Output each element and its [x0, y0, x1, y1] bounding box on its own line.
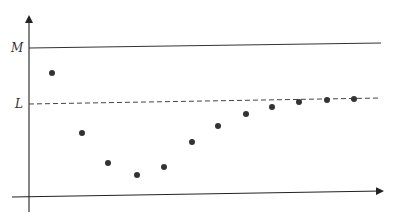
- data-points: [49, 70, 357, 178]
- data-point: [296, 99, 302, 105]
- data-point: [49, 70, 55, 76]
- data-point: [324, 97, 330, 103]
- data-point: [243, 111, 249, 117]
- data-point: [189, 139, 195, 145]
- data-point: [105, 160, 111, 166]
- data-point: [79, 130, 85, 136]
- x-axis: [12, 191, 382, 197]
- m-reference-line: [29, 43, 381, 48]
- m-label: M: [10, 41, 24, 55]
- data-point: [269, 104, 275, 110]
- data-point: [134, 172, 140, 178]
- data-point: [161, 164, 167, 170]
- l-label: L: [14, 97, 23, 111]
- chart: M L: [0, 0, 394, 219]
- data-point: [215, 123, 221, 129]
- data-point: [351, 96, 357, 102]
